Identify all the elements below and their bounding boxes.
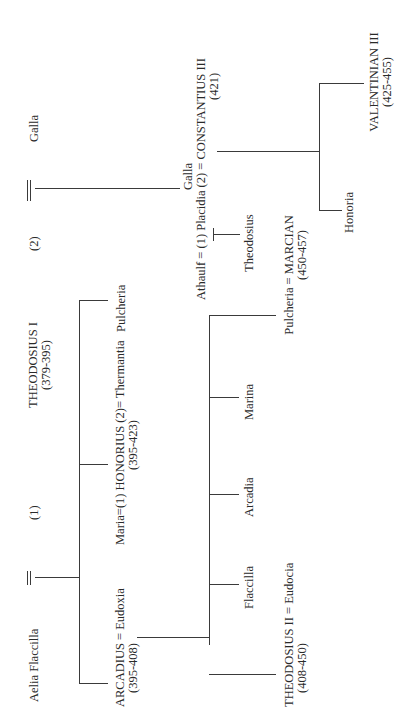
label-theodosius-i: THEODOSIUS I (379-395) (27, 322, 53, 408)
connector-arcadia (209, 494, 239, 495)
bracket-arcadius-children (209, 315, 210, 645)
connector-theodosius-ii (209, 674, 276, 675)
label-galla: Galla (28, 115, 41, 142)
connector-flaccilla (209, 584, 239, 585)
constantius-reign: (421) (208, 40, 221, 300)
label-marina: Marina (243, 384, 256, 420)
label-galla-placidia: Galla Athaulf = (1) Placidia (2) = CONST… (182, 40, 221, 300)
theodosius-ii-reign: (408-450) (296, 557, 309, 707)
connector-honoria (319, 210, 342, 211)
connector-honorius (79, 464, 108, 465)
marcian-reign: (450-457) (296, 210, 309, 340)
connector-arcadius-descent (137, 637, 210, 638)
marker-second-marriage: (2) (28, 236, 41, 251)
label-arcadius: ARCADIUS = Eudoxia (395-408) (114, 572, 140, 707)
label-valentinian-iii: VALENTINIAN III (425-455) (368, 32, 394, 132)
label-aelia-flaccilla: Aelia Flaccilla (28, 629, 41, 702)
label-honoria: Honoria (343, 192, 356, 233)
label-arcadia: Arcadia (243, 477, 256, 517)
connector-marriage-2 (35, 188, 180, 189)
marriage-sign-2 (27, 180, 31, 201)
connector-valentinian (319, 83, 364, 84)
connector-marriage-1 (35, 577, 80, 578)
connector-pulcheria-marcian (209, 315, 276, 316)
label-pulcheria-marcian: Pulcheria = MARCIAN (450-457) (283, 210, 309, 340)
label-pulcheria-sister: Pulcheria (115, 285, 128, 332)
bracket-theodosius-children (79, 300, 80, 684)
valentinian-reign: (425-455) (381, 32, 394, 132)
bracket-placidia-children (319, 83, 320, 211)
connector-constantius-descent (217, 151, 320, 152)
honorius-reign: (395-423) (127, 345, 140, 545)
marriage-sign-1 (27, 571, 31, 585)
connector-theodosius-child (213, 234, 240, 235)
marker-first-marriage: (1) (28, 505, 41, 520)
theodosius-i-reign: (379-395) (40, 322, 53, 408)
arcadius-reign: (395-408) (127, 572, 140, 707)
connector-marina (209, 397, 239, 398)
label-theodosius-child: Theodosius (243, 214, 256, 272)
label-flaccilla: Flaccilla (243, 566, 256, 609)
label-theodosius-ii: THEODOSIUS II = Eudocia (408-450) (283, 557, 309, 707)
label-honorius: Maria=(1) HONORIUS (2)= Thermantia (395-… (114, 345, 140, 545)
connector-pulcheria (79, 300, 108, 301)
connector-arcadius (79, 683, 108, 684)
